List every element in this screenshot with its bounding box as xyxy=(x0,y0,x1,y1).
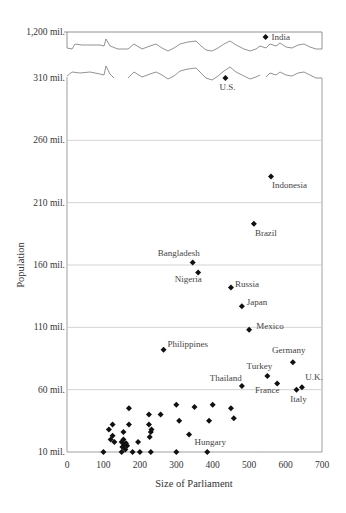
data-point xyxy=(137,449,143,455)
data-point xyxy=(135,439,141,445)
data-point xyxy=(120,429,126,435)
point-label-thailand: Thailand xyxy=(210,373,242,383)
data-point xyxy=(228,405,234,411)
data-point xyxy=(206,418,212,424)
x-tick-label: 600 xyxy=(278,460,293,470)
x-tick-label: 400 xyxy=(206,460,221,470)
x-tick-label: 500 xyxy=(242,460,257,470)
point-label-u-k: U.K. xyxy=(305,372,323,382)
point-label-russia: Russia xyxy=(235,279,259,289)
y-tick-label: 160 mil. xyxy=(33,260,65,270)
y-axis-ticks: 10 mil.60 mil.110 mil.160 mil.210 mil.26… xyxy=(26,27,65,457)
x-tick-label: 300 xyxy=(169,460,184,470)
data-point xyxy=(110,422,116,428)
point-label-philippines: Philippines xyxy=(168,339,209,349)
data-point xyxy=(186,432,192,438)
data-point xyxy=(176,418,182,424)
data-point xyxy=(130,449,136,455)
x-tick-label: 200 xyxy=(133,460,148,470)
x-tick-label: 700 xyxy=(315,460,330,470)
point-label-nigeria: Nigeria xyxy=(175,274,202,284)
point-label-brazil: Brazil xyxy=(255,228,277,238)
point-label-hungary: Hungary xyxy=(195,437,227,447)
point-label-indonesia: Indonesia xyxy=(272,180,307,190)
data-point xyxy=(192,404,198,410)
data-point xyxy=(106,427,112,433)
axis-break-line-lower xyxy=(67,66,322,80)
data-point xyxy=(146,422,152,428)
scatter-chart: 10 mil.60 mil.110 mil.160 mil.210 mil.26… xyxy=(0,0,346,513)
y-tick-label: 310 mil. xyxy=(33,73,65,83)
y-tick-label: 260 mil. xyxy=(33,135,65,145)
data-point xyxy=(231,415,237,421)
data-point xyxy=(148,449,154,455)
point-label-france: France xyxy=(255,385,280,395)
y-tick-label: 60 mil. xyxy=(38,385,65,395)
data-point xyxy=(173,402,179,408)
x-tick-label: 0 xyxy=(65,460,70,470)
point-label-germany: Germany xyxy=(272,345,306,355)
point-label-u-s: U.S. xyxy=(219,82,235,92)
data-point-indonesia xyxy=(268,173,274,179)
data-point-germany xyxy=(290,359,296,365)
point-label-japan: Japan xyxy=(247,297,268,307)
data-point xyxy=(100,449,106,455)
y-tick-label: 110 mil. xyxy=(34,322,65,332)
data-point xyxy=(147,434,153,440)
data-point-japan xyxy=(239,303,245,309)
data-point xyxy=(126,405,132,411)
data-point-russia xyxy=(228,284,234,290)
data-point xyxy=(146,412,152,418)
data-point-thailand xyxy=(239,383,245,389)
x-axis-ticks: 0100200300400500600700 xyxy=(65,460,330,470)
y-axis-title: Population xyxy=(15,242,26,288)
data-point-u-s xyxy=(222,75,228,81)
data-point xyxy=(158,412,164,418)
lower-panel xyxy=(67,66,322,452)
data-point-turkey xyxy=(264,373,270,379)
x-axis-title: Size of Parliament xyxy=(155,478,233,489)
data-point-brazil xyxy=(251,221,257,227)
data-point xyxy=(173,449,179,455)
y-tick-label: 1,200 mil. xyxy=(26,27,65,37)
data-point xyxy=(210,402,216,408)
point-label-india: India xyxy=(272,32,291,42)
data-point-hungary xyxy=(204,449,210,455)
x-tick-label: 100 xyxy=(96,460,111,470)
data-point-india xyxy=(263,34,269,40)
point-label-mexico: Mexico xyxy=(256,321,284,331)
point-label-turkey: Turkey xyxy=(247,361,273,371)
point-label-italy: Italy xyxy=(290,394,307,404)
data-point-philippines xyxy=(161,347,167,353)
y-tick-label: 210 mil. xyxy=(33,198,65,208)
data-point-italy xyxy=(294,387,300,393)
y-tick-label: 10 mil. xyxy=(38,447,65,457)
data-point xyxy=(126,422,132,428)
point-label-bangladesh: Bangladesh xyxy=(158,248,200,258)
